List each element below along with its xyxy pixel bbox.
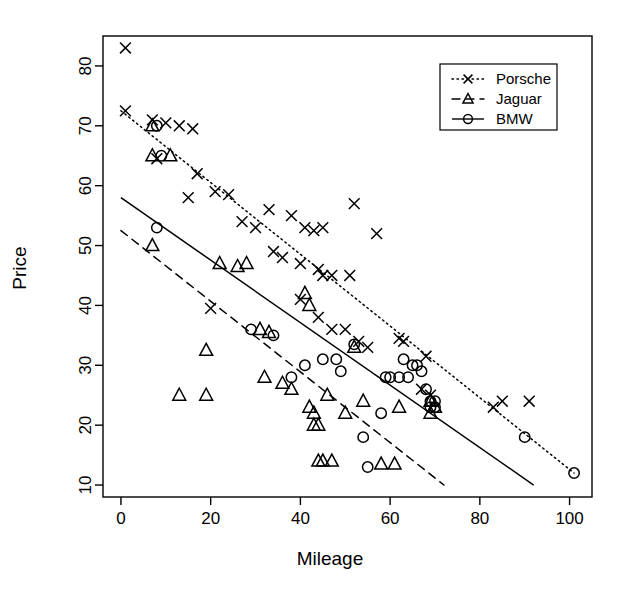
legend-label-jaguar: Jaguar	[496, 90, 542, 107]
legend-label-porsche: Porsche	[496, 70, 551, 87]
x-axis-tick-label: 60	[381, 509, 400, 528]
plot-canvas: 0204060801001020304050607080 PorscheJagu…	[0, 0, 630, 592]
y-axis-tick-label: 40	[76, 296, 95, 315]
y-axis-tick-label: 70	[76, 116, 95, 135]
legend-label-bmw: BMW	[496, 110, 534, 127]
y-axis-tick-label: 50	[76, 236, 95, 255]
y-axis-title: Price	[9, 246, 30, 289]
x-axis-tick-label: 40	[291, 509, 310, 528]
x-axis-tick-label: 0	[116, 509, 125, 528]
y-axis-tick-label: 80	[76, 56, 95, 75]
y-axis-tick-label: 60	[76, 176, 95, 195]
y-axis-tick-label: 10	[76, 476, 95, 495]
legend: PorscheJaguarBMW	[440, 64, 557, 130]
x-axis-title: Mileage	[297, 548, 364, 569]
scatter-plot-figure: 0204060801001020304050607080 PorscheJagu…	[0, 0, 630, 592]
y-axis-tick-label: 30	[76, 356, 95, 375]
x-axis-tick-label: 100	[555, 509, 583, 528]
y-axis-tick-label: 20	[76, 416, 95, 435]
x-axis-tick-label: 80	[470, 509, 489, 528]
x-axis-tick-label: 20	[201, 509, 220, 528]
